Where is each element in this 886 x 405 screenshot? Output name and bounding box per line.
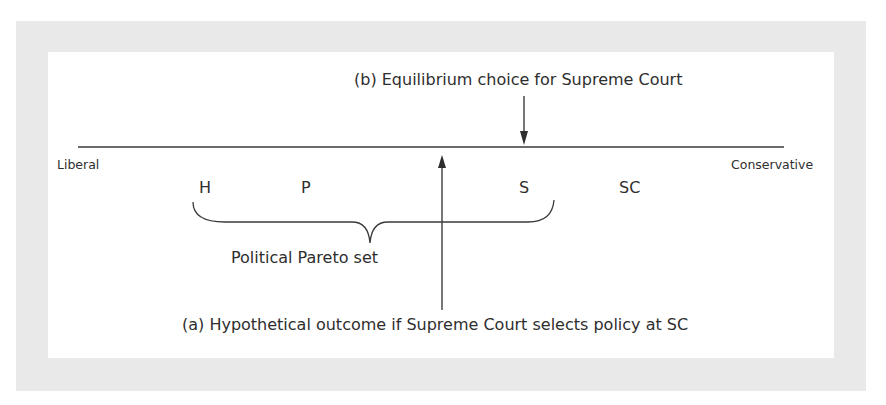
annotation-a: (a) Hypothetical outcome if Supreme Cour… bbox=[182, 315, 688, 334]
equilibrium-arrowhead-icon bbox=[520, 131, 528, 145]
hypothetical-arrowhead-icon bbox=[438, 155, 446, 168]
point-label-p: P bbox=[301, 178, 311, 197]
pareto-brace bbox=[193, 200, 554, 243]
brace-label: Political Pareto set bbox=[231, 248, 378, 267]
annotation-b: (b) Equilibrium choice for Supreme Court bbox=[354, 70, 682, 89]
axis-label-liberal: Liberal bbox=[57, 157, 99, 172]
point-label-h: H bbox=[199, 178, 211, 197]
axis-label-conservative: Conservative bbox=[731, 157, 813, 172]
point-label-s: S bbox=[519, 178, 529, 197]
point-label-sc: SC bbox=[619, 178, 640, 197]
diagram-graphics bbox=[0, 0, 886, 405]
